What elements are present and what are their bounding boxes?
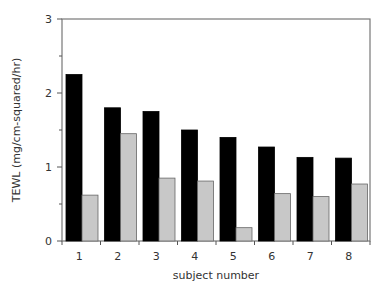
bar-series-2-2 (121, 134, 137, 241)
x-tick-label: 7 (307, 250, 314, 263)
bar-series-2-4 (198, 181, 214, 241)
bar-series-1-5 (220, 137, 236, 241)
bar-series-1-8 (336, 158, 352, 241)
x-tick-label: 4 (191, 250, 198, 263)
y-tick-label: 1 (45, 161, 52, 174)
bars (66, 75, 368, 242)
y-axis-label: TEWL (mg/cm-squared/hr) (10, 58, 23, 204)
bar-series-2-3 (159, 178, 175, 241)
bar-series-2-5 (236, 228, 252, 241)
bar-series-1-7 (297, 157, 313, 241)
bar-series-1-3 (143, 112, 159, 242)
y-tick-label: 2 (45, 87, 52, 100)
y-tick-label: 3 (45, 13, 52, 26)
bar-series-1-4 (182, 130, 198, 241)
bar-chart: 0123 12345678 TEWL (mg/cm-squared/hr) su… (0, 0, 390, 301)
bar-series-1-6 (259, 147, 275, 241)
x-tick-label: 3 (153, 250, 160, 263)
bar-series-1-1 (66, 75, 82, 242)
bar-series-2-1 (82, 195, 98, 241)
x-tick-label: 8 (345, 250, 352, 263)
x-tick-label: 1 (76, 250, 83, 263)
x-tick-label: 6 (268, 250, 275, 263)
x-axis-label: subject number (173, 269, 260, 282)
bar-series-1-2 (105, 108, 121, 241)
y-axis: 0123 (45, 13, 62, 248)
x-tick-label: 5 (230, 250, 237, 263)
y-tick-label: 0 (45, 235, 52, 248)
bar-series-2-7 (313, 197, 329, 241)
x-tick-label: 2 (114, 250, 121, 263)
x-axis: 12345678 (62, 241, 370, 263)
bar-series-2-6 (275, 194, 291, 241)
bar-series-2-8 (352, 184, 368, 241)
